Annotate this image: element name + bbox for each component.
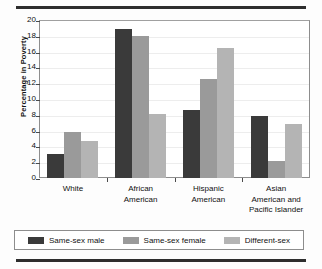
x-axis-label-line: Hispanic — [175, 184, 243, 195]
y-tick-label: 2 — [32, 158, 36, 166]
bar[interactable] — [217, 48, 234, 178]
x-axis-label-line: White — [39, 184, 107, 195]
bar[interactable] — [183, 110, 200, 178]
axis-area — [39, 20, 310, 178]
bar-group — [107, 20, 175, 178]
y-tick-label: 16 — [27, 48, 36, 56]
plot-wrapper: Percentage in Poverty 20181614121086420 — [8, 20, 314, 182]
legend-label: Different-sex — [245, 236, 290, 245]
y-tick-label: 20 — [27, 16, 36, 24]
legend-swatch-icon — [224, 237, 240, 244]
x-axis-label-line: American and — [242, 195, 310, 206]
legend-item[interactable]: Same-sex female — [123, 236, 206, 245]
x-axis-label-line: African — [107, 184, 175, 195]
legend-label: Same-sex male — [49, 236, 105, 245]
y-tick-label: 4 — [32, 142, 36, 150]
top-rule — [16, 6, 306, 9]
x-tick-mark — [107, 178, 108, 182]
y-tick-label: 6 — [32, 127, 36, 135]
bar[interactable] — [285, 124, 302, 179]
x-tick-mark — [175, 178, 176, 182]
x-axis-label-line: American — [175, 195, 243, 206]
bar[interactable] — [64, 132, 81, 178]
bar-group — [175, 20, 243, 178]
bar[interactable] — [81, 141, 98, 178]
x-axis-label: AsianAmerican andPacific Islander — [242, 184, 310, 216]
x-axis-label: HispanicAmerican — [175, 184, 243, 216]
x-tick-mark — [242, 178, 243, 182]
y-tick-label: 12 — [27, 79, 36, 87]
legend-item[interactable]: Same-sex male — [28, 236, 105, 245]
y-tick-label: 14 — [27, 63, 36, 71]
bar[interactable] — [268, 161, 285, 178]
bar[interactable] — [149, 114, 166, 178]
legend-label: Same-sex female — [144, 236, 206, 245]
bar[interactable] — [200, 79, 217, 178]
bar[interactable] — [115, 29, 132, 178]
x-axis-label-line: American — [107, 195, 175, 206]
x-axis-label-line: Pacific Islander — [242, 205, 310, 216]
x-axis-label: AfricanAmerican — [107, 184, 175, 216]
legend-item[interactable]: Different-sex — [224, 236, 290, 245]
x-axis-label: White — [39, 184, 107, 216]
y-tick-label: 18 — [27, 32, 36, 40]
bar[interactable] — [47, 154, 64, 178]
x-axis-label-line: Asian — [242, 184, 310, 195]
bottom-rule — [16, 259, 306, 262]
bar-group — [242, 20, 310, 178]
x-axis-labels: WhiteAfricanAmericanHispanicAmericanAsia… — [39, 184, 310, 216]
legend-swatch-icon — [28, 237, 44, 244]
bar[interactable] — [251, 116, 268, 178]
bar-group — [39, 20, 107, 178]
bar[interactable] — [132, 36, 149, 178]
y-tick-label: 8 — [32, 111, 36, 119]
y-axis-tick-labels: 20181614121086420 — [16, 20, 36, 178]
figure: Percentage in Poverty 20181614121086420 … — [0, 0, 322, 269]
bar-groups — [39, 20, 310, 178]
y-tick-label: 10 — [27, 95, 36, 103]
legend-swatch-icon — [123, 237, 139, 244]
y-tick-label: 0 — [32, 174, 36, 182]
y-tick-mark — [36, 179, 40, 180]
legend: Same-sex maleSame-sex femaleDifferent-se… — [14, 230, 304, 250]
